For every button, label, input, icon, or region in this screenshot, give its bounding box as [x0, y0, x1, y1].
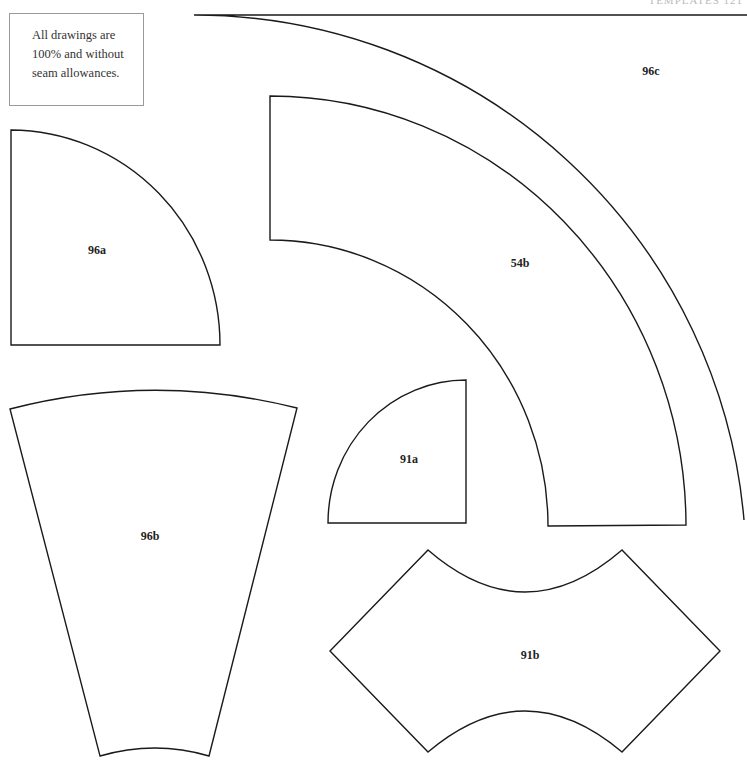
- template-96c-outline: [194, 15, 747, 520]
- template-54b-outline: [270, 96, 686, 526]
- label-91b: 91b: [521, 648, 540, 663]
- label-54b: 54b: [511, 256, 530, 271]
- note-line: All drawings are: [32, 26, 143, 45]
- note-line: seam allowances.: [32, 64, 143, 83]
- template-91a-outline: [328, 380, 466, 523]
- label-96b: 96b: [141, 529, 160, 544]
- pattern-sheet: [0, 0, 747, 765]
- note-box: All drawings are 100% and without seam a…: [9, 13, 144, 106]
- label-96a: 96a: [88, 243, 106, 258]
- label-96c: 96c: [642, 64, 659, 79]
- page-header-fragment: TEMPLATES 121: [648, 0, 743, 6]
- note-line: 100% and without: [32, 45, 143, 64]
- template-96b-outline: [10, 390, 297, 756]
- label-91a: 91a: [400, 452, 418, 467]
- template-96a-outline: [11, 130, 220, 345]
